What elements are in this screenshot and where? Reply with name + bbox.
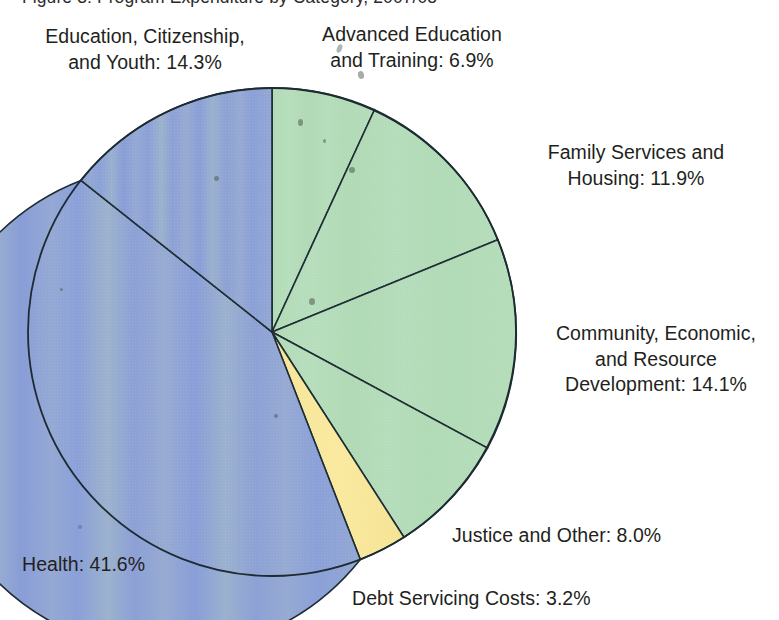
pie-label-justice-other: Justice and Other: 8.0% — [452, 523, 690, 549]
pie-chart-figure: Figure 3: Program Expenditure by Categor… — [0, 0, 779, 620]
pie-label-line: Advanced Education — [296, 22, 528, 48]
pie-label-line: Health: 41.6% — [22, 552, 222, 578]
scan-speckle — [298, 119, 303, 126]
scan-speckle — [60, 288, 63, 291]
pie-label-line: Debt Servicing Costs: 3.2% — [352, 586, 652, 612]
pie-label-family-services: Family Services and Housing: 11.9% — [516, 140, 756, 191]
pie-label-advanced-education: Advanced Education and Training: 6.9% — [296, 22, 528, 73]
pie-label-line: and Youth: 14.3% — [14, 50, 276, 76]
pie-label-community-economic: Community, Economic, and Resource Develo… — [536, 321, 776, 398]
scan-speckle — [309, 298, 315, 305]
pie-label-line: Family Services and — [516, 140, 756, 166]
pie-label-debt-servicing: Debt Servicing Costs: 3.2% — [352, 586, 652, 612]
pie-label-education-citizenship: Education, Citizenship, and Youth: 14.3% — [14, 24, 276, 75]
pie-label-line: Development: 14.1% — [536, 372, 776, 398]
pie-label-line: and Resource — [536, 347, 776, 373]
pie-label-line: Community, Economic, — [536, 321, 776, 347]
scan-speckle — [274, 414, 278, 418]
scan-speckle — [78, 525, 82, 529]
pie-label-health: Health: 41.6% — [22, 552, 222, 578]
scan-speckle — [214, 176, 219, 181]
pie-label-line: and Training: 6.9% — [296, 48, 528, 74]
scan-speckle — [349, 167, 355, 173]
pie-slices — [0, 88, 516, 620]
pie-label-line: Housing: 11.9% — [516, 166, 756, 192]
pie-label-line: Education, Citizenship, — [14, 24, 276, 50]
pie-label-line: Justice and Other: 8.0% — [452, 523, 690, 549]
scan-speckle — [323, 139, 326, 143]
